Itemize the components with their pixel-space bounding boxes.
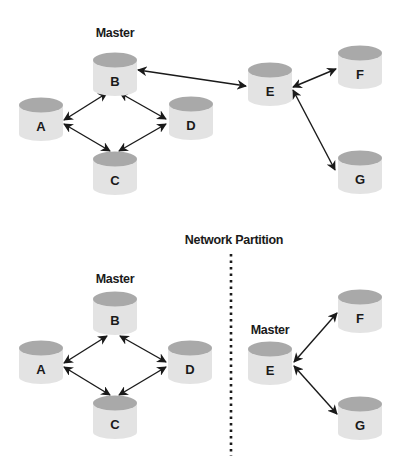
- bottom-right-cluster: Master E F G: [248, 290, 382, 441]
- replication-diagram: Master A B C D E: [0, 0, 405, 462]
- edge-a-b: [64, 93, 107, 120]
- node-label: D: [186, 118, 195, 133]
- node-label: F: [356, 67, 364, 82]
- node-label: D: [185, 362, 194, 377]
- master-label-top: Master: [96, 26, 135, 40]
- node-label: E: [266, 363, 275, 378]
- node-label: B: [110, 74, 119, 89]
- node-d: D: [168, 341, 212, 385]
- bottom-right-edges: [294, 313, 337, 414]
- node-f: F: [338, 46, 382, 90]
- node-c: C: [93, 152, 137, 196]
- edge-e-f: [293, 69, 336, 87]
- edge-b-d: [120, 93, 166, 119]
- bottom-left-edges: [64, 336, 166, 395]
- node-label: B: [110, 313, 119, 328]
- partition-label: Network Partition: [185, 233, 283, 247]
- node-a: A: [19, 98, 63, 142]
- edge-a-c: [64, 367, 110, 395]
- edge-e-g: [293, 90, 335, 170]
- node-e-master: E: [248, 342, 292, 386]
- master-label-bottom-left: Master: [96, 272, 135, 286]
- bottom-left-cluster: Master A B C D: [19, 272, 212, 439]
- edge-e-f: [294, 313, 337, 362]
- edge-c-d: [119, 367, 166, 395]
- edge-e-g: [294, 366, 337, 414]
- edge-a-b: [64, 336, 107, 363]
- node-e: E: [248, 63, 292, 107]
- edge-b-d: [120, 336, 166, 362]
- node-b-master: B: [93, 53, 137, 97]
- top-cluster: Master A B C D E: [19, 26, 382, 195]
- node-g: G: [338, 397, 382, 441]
- node-g: G: [338, 151, 382, 195]
- node-label: A: [36, 119, 46, 134]
- node-b-master: B: [93, 292, 137, 336]
- node-label: C: [110, 417, 120, 432]
- node-c: C: [93, 396, 137, 440]
- node-f: F: [338, 290, 382, 334]
- node-label: F: [356, 311, 364, 326]
- node-label: A: [36, 362, 46, 377]
- node-a: A: [19, 341, 63, 385]
- node-label: E: [266, 84, 275, 99]
- node-d: D: [169, 97, 213, 141]
- node-label: C: [110, 173, 120, 188]
- master-label-bottom-right: Master: [251, 323, 290, 337]
- edge-b-e: [138, 70, 246, 86]
- node-label: G: [355, 172, 365, 187]
- edge-a-c: [64, 124, 110, 151]
- node-label: G: [355, 418, 365, 433]
- edge-c-d: [119, 124, 166, 151]
